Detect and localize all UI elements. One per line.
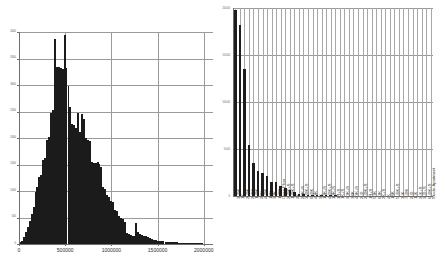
x-axis-category-label: Studio Apartment	[432, 168, 436, 199]
x-axis-line	[233, 196, 433, 197]
gridline-vertical	[344, 8, 345, 196]
gridline-vertical	[394, 8, 395, 196]
gridline-vertical	[376, 8, 377, 196]
bar	[234, 10, 237, 196]
bar-chart-plot-area	[233, 8, 433, 196]
y-axis-tick-label: 0	[215, 195, 230, 198]
gridline-vertical	[326, 8, 327, 196]
y-axis-tick-label: 3000	[0, 84, 16, 87]
gridline-vertical	[158, 32, 159, 244]
gridline-vertical	[276, 8, 277, 196]
y-axis-tick-label: 2500	[0, 110, 16, 113]
gridline-vertical	[385, 8, 386, 196]
y-axis-tick-label: 5000	[215, 148, 230, 151]
gridline-vertical	[331, 8, 332, 196]
gridline-vertical	[381, 8, 382, 196]
gridline-vertical	[263, 8, 264, 196]
gridline-vertical	[403, 8, 404, 196]
bar-chart-panel: 050001000015000200003LDK1K2LDK2LDK1LDK2D…	[215, 0, 438, 264]
gridline-vertical	[408, 8, 409, 196]
gridline-vertical	[367, 8, 368, 196]
gridline-vertical	[417, 8, 418, 196]
gridline-vertical	[322, 8, 323, 196]
x-axis-tick-label: 1500000	[136, 248, 180, 253]
y-axis-tick-label: 10000	[215, 101, 230, 104]
gridline-vertical	[267, 8, 268, 196]
x-axis-tick-label: 1000000	[89, 248, 133, 253]
y-axis-tick-label: 4000	[0, 31, 16, 34]
gridline-horizontal	[19, 112, 213, 113]
gridline-vertical	[290, 8, 291, 196]
gridline-vertical	[317, 8, 318, 196]
y-axis-tick-label: 1500	[0, 163, 16, 166]
gridline-vertical	[204, 32, 205, 244]
gridline-vertical	[349, 8, 350, 196]
bar	[243, 69, 246, 196]
gridline-vertical	[294, 8, 295, 196]
gridline-vertical	[335, 8, 336, 196]
y-axis-line	[19, 32, 20, 244]
gridline-vertical	[372, 8, 373, 196]
gridline-vertical	[308, 8, 309, 196]
histogram-panel: 0500100015002000250030003500400005000001…	[0, 0, 215, 264]
gridline-vertical	[353, 8, 354, 196]
gridline-vertical	[258, 8, 259, 196]
gridline-vertical	[426, 8, 427, 196]
gridline-horizontal	[19, 59, 213, 60]
y-axis-tick-label: 500	[0, 216, 16, 219]
bar	[239, 25, 242, 196]
gridline-vertical	[413, 8, 414, 196]
y-axis-tick-label: 20000	[215, 7, 230, 10]
gridline-vertical	[303, 8, 304, 196]
y-axis-tick-label: 0	[0, 243, 16, 246]
gridline-vertical	[281, 8, 282, 196]
gridline-vertical	[358, 8, 359, 196]
y-axis-tick-label: 3500	[0, 57, 16, 60]
gridline-vertical	[313, 8, 314, 196]
gridline-vertical	[422, 8, 423, 196]
gridline-vertical	[390, 8, 391, 196]
gridline-vertical	[285, 8, 286, 196]
x-axis-tick-label: 500000	[43, 248, 87, 253]
gridline-vertical	[299, 8, 300, 196]
gridline-horizontal	[19, 32, 213, 33]
y-axis-tick-label: 15000	[215, 54, 230, 57]
gridline-vertical	[363, 8, 364, 196]
gridline-vertical	[340, 8, 341, 196]
histogram-plot-area	[19, 32, 213, 244]
x-axis-tick-label: 0	[0, 248, 41, 253]
y-axis-tick-label: 1000	[0, 190, 16, 193]
figure-canvas: 0500100015002000250030003500400005000001…	[0, 0, 438, 264]
gridline-vertical	[272, 8, 273, 196]
x-axis-line	[19, 244, 213, 245]
gridline-horizontal	[19, 85, 213, 86]
y-axis-line	[233, 8, 234, 196]
y-axis-tick-label: 2000	[0, 137, 16, 140]
gridline-vertical	[399, 8, 400, 196]
